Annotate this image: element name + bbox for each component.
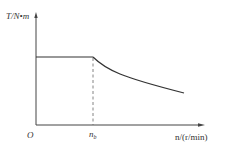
x-axis-label: n/(r/min): [175, 133, 208, 142]
nb-main: n: [89, 129, 94, 139]
y-axis-label: T/N•m: [6, 12, 29, 21]
torque-speed-chart: [0, 0, 230, 148]
x-axis-arrow-icon: [198, 123, 205, 126]
nb-tick-label: nb: [89, 130, 97, 139]
nb-subscript: b: [94, 134, 97, 140]
constant-power-curve: [93, 57, 184, 93]
origin-label: O: [27, 131, 34, 140]
y-axis-arrow-icon: [34, 12, 37, 18]
